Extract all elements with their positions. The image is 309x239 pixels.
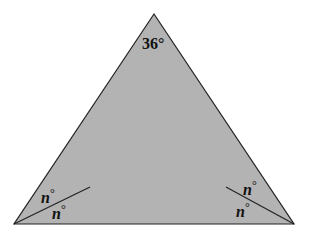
triangle-diagram: 36° n° n° n° n°	[0, 0, 309, 239]
diagram-canvas: 36° n° n° n° n°	[0, 0, 309, 239]
apex-angle-label: 36°	[142, 35, 164, 52]
